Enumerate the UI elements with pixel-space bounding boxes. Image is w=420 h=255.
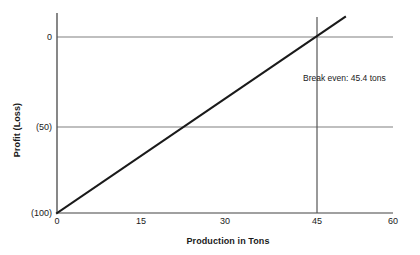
- y-axis-title: Profit (Loss): [12, 103, 22, 157]
- x-tick-label-60: 60: [388, 216, 398, 226]
- chart-canvas: [0, 0, 420, 255]
- x-axis-title: Production in Tons: [186, 236, 269, 246]
- y-tick-label-minus100: (100): [20, 208, 52, 218]
- y-tick-label-0: 0: [20, 32, 52, 42]
- profit-loss-series-line: [57, 17, 345, 213]
- break-even-annotation-label: Break even: 45.4 tons: [303, 73, 386, 83]
- x-tick-label-15: 15: [136, 216, 146, 226]
- x-tick-label-45: 45: [312, 216, 322, 226]
- x-tick-label-0: 0: [54, 216, 59, 226]
- y-tick-label-minus50: (50): [20, 122, 52, 132]
- x-tick-label-30: 30: [220, 216, 230, 226]
- profit-loss-chart: 0 15 30 45 60 0 (50) (100) Production in…: [0, 0, 420, 255]
